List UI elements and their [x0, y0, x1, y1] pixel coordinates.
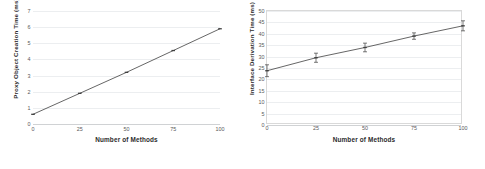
- data-series: [267, 11, 463, 125]
- x-axis-title: Number of Methods: [33, 136, 220, 143]
- y-axis-tick-label: 10: [259, 99, 265, 105]
- y-axis-tick-label: 1: [28, 105, 31, 111]
- plot-area: 051015202530354045500255075100: [266, 10, 462, 124]
- y-axis-tick-label: 20: [259, 76, 265, 82]
- x-axis-tick-label: 50: [124, 126, 130, 132]
- x-axis-tick-label: 25: [313, 125, 319, 131]
- y-axis-tick-label: 6: [28, 24, 31, 30]
- y-axis-tick-label: 45: [259, 19, 265, 25]
- data-series: [33, 11, 220, 124]
- y-axis-tick-label: 30: [259, 54, 265, 60]
- y-axis-tick-label: 0: [262, 122, 265, 128]
- y-axis-tick-label: 2: [28, 89, 31, 95]
- y-axis-title: Proxy Object Creation Time (ms): [8, 0, 24, 133]
- chart-panel-proxy-object-creation-time: Proxy Object Creation Time (ms) 01234567…: [0, 0, 242, 169]
- x-axis-tick-label: 0: [266, 125, 269, 131]
- y-axis-tick-label: 5: [262, 111, 265, 117]
- x-axis-tick-label: 50: [362, 125, 368, 131]
- y-axis-tick-label: 3: [28, 73, 31, 79]
- x-axis-tick-label: 75: [170, 126, 176, 132]
- series-line: [33, 29, 220, 115]
- y-axis-tick-label: 35: [259, 42, 265, 48]
- x-axis-tick-label: 100: [216, 126, 225, 132]
- x-axis-line: [33, 124, 220, 125]
- y-axis-tick-label: 7: [28, 8, 31, 14]
- figure-two-panel-charts: Proxy Object Creation Time (ms) 01234567…: [0, 0, 485, 169]
- x-axis-tick-label: 0: [32, 126, 35, 132]
- y-axis-tick-label: 5: [28, 40, 31, 46]
- plot-area: 012345670255075100: [33, 11, 220, 124]
- x-axis-tick-label: 75: [411, 125, 417, 131]
- x-axis-tick-label: 25: [77, 126, 83, 132]
- x-axis-title: Number of Methods: [266, 136, 462, 143]
- y-axis-tick-label: 50: [259, 8, 265, 14]
- y-axis-tick-label: 40: [259, 31, 265, 37]
- x-axis-tick-label: 100: [459, 125, 468, 131]
- y-axis-tick-label: 0: [28, 121, 31, 127]
- y-axis-tick-label: 15: [259, 88, 265, 94]
- chart-panel-interface-derivation-time: Interface Derivation Time (ms) 051015202…: [242, 0, 485, 169]
- y-axis-tick-label: 4: [28, 56, 31, 62]
- y-axis-tick-label: 25: [259, 65, 265, 71]
